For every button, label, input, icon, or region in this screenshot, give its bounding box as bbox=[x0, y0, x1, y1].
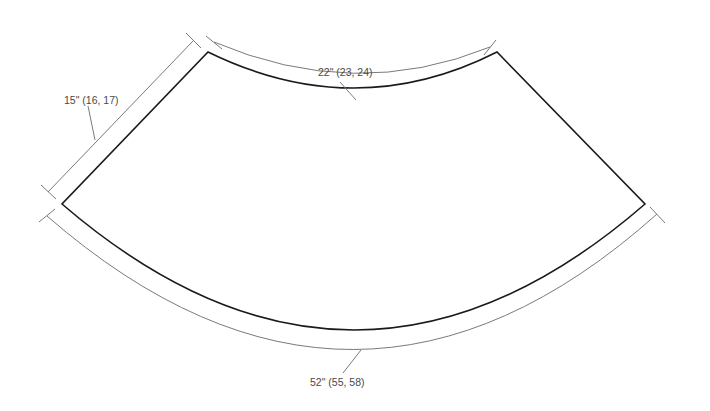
side-edge-label: 15" (16, 17) bbox=[64, 94, 119, 106]
bottom-arc-dimension bbox=[39, 207, 665, 373]
top-arc-label: 22" (23, 24) bbox=[318, 66, 373, 78]
side-edge-dimension bbox=[41, 33, 201, 199]
bottom-arc-label: 52" (55, 58) bbox=[310, 376, 365, 388]
pattern-diagram bbox=[0, 0, 710, 411]
